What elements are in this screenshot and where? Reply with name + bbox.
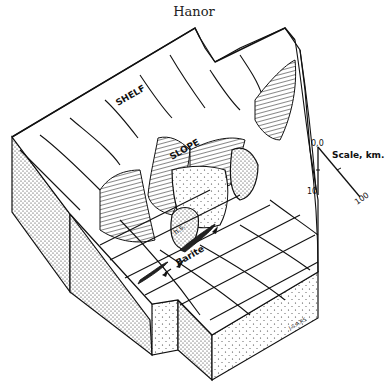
front-notch-face-left bbox=[152, 300, 178, 355]
scale-indicator: 0,0 10 100 Scale, km. bbox=[307, 139, 384, 207]
scale-title: Scale, km. bbox=[332, 150, 384, 160]
scale-origin: 0,0 bbox=[311, 139, 324, 148]
scale-horizontal-tick: 100 bbox=[353, 191, 371, 207]
scale-vertical-tick: 10 bbox=[307, 187, 317, 196]
block-diagram: SHELF SLOPE h.s. Barite 0,0 10 100 Scale… bbox=[0, 0, 388, 386]
